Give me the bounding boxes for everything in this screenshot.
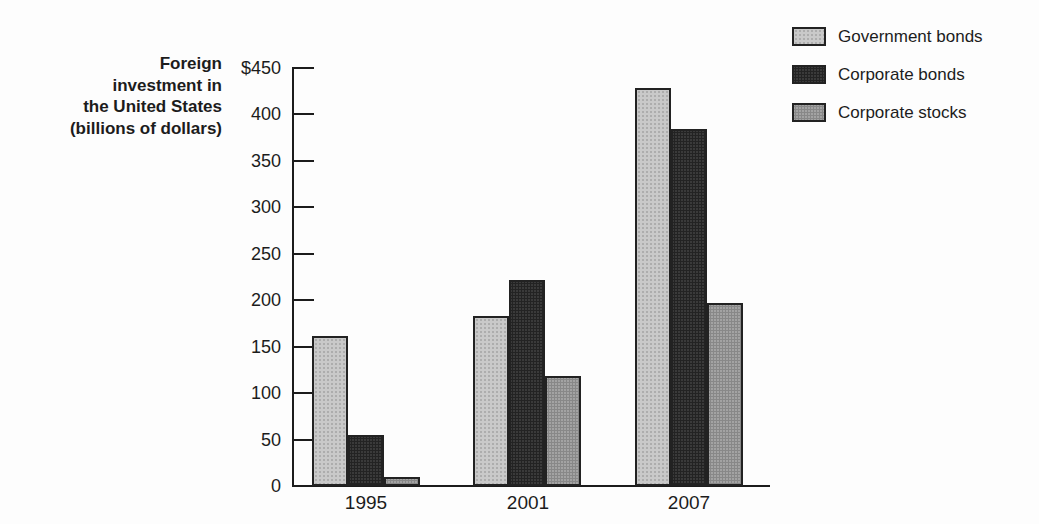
y-tick-250 xyxy=(294,253,314,255)
legend-item-government-bonds: Government bonds xyxy=(792,27,983,46)
y-tick-450 xyxy=(294,67,314,69)
bar-1995-corporate-bonds xyxy=(348,435,384,486)
y-tick-350 xyxy=(294,160,314,162)
y-tick-label-400: 400 xyxy=(177,103,281,125)
y-axis-line xyxy=(292,67,294,487)
y-tick-label-50: 50 xyxy=(177,429,281,451)
bar-2007-corporate-stocks xyxy=(707,303,743,486)
bar-2007-corporate-bonds xyxy=(671,129,707,486)
y-tick-label-100: 100 xyxy=(177,382,281,404)
y-tick-label-300: 300 xyxy=(177,196,281,218)
y-tick-150 xyxy=(294,346,314,348)
y-tick-label-0: 0 xyxy=(177,475,281,497)
y-tick-label-350: 350 xyxy=(177,150,281,172)
y-tick-50 xyxy=(294,439,314,441)
legend-label-corporate-stocks: Corporate stocks xyxy=(838,103,967,122)
category-label-2001: 2001 xyxy=(473,492,583,514)
y-tick-label-450: $450 xyxy=(177,57,281,79)
foreign-investment-bar-chart: Foreign investment in the United States … xyxy=(0,0,1039,524)
legend: Government bondsCorporate bondsCorporate… xyxy=(792,27,983,141)
legend-label-government-bonds: Government bonds xyxy=(838,27,983,46)
y-tick-100 xyxy=(294,392,314,394)
category-label-2007: 2007 xyxy=(634,492,744,514)
category-label-1995: 1995 xyxy=(311,492,421,514)
bar-2001-corporate-stocks xyxy=(545,376,581,486)
y-tick-400 xyxy=(294,113,314,115)
legend-item-corporate-bonds: Corporate bonds xyxy=(792,65,983,84)
bar-1995-government-bonds xyxy=(312,336,348,486)
legend-item-corporate-stocks: Corporate stocks xyxy=(792,103,983,122)
y-tick-label-250: 250 xyxy=(177,243,281,265)
bar-2007-government-bonds xyxy=(635,88,671,486)
legend-swatch-corporate-bonds xyxy=(792,65,826,84)
bar-1995-corporate-stocks xyxy=(384,477,420,486)
legend-swatch-government-bonds xyxy=(792,27,826,46)
legend-label-corporate-bonds: Corporate bonds xyxy=(838,65,965,84)
y-tick-200 xyxy=(294,299,314,301)
bar-2001-government-bonds xyxy=(473,316,509,486)
y-tick-label-150: 150 xyxy=(177,336,281,358)
y-tick-label-200: 200 xyxy=(177,289,281,311)
legend-swatch-corporate-stocks xyxy=(792,103,826,122)
bar-2001-corporate-bonds xyxy=(509,280,545,486)
y-tick-300 xyxy=(294,206,314,208)
